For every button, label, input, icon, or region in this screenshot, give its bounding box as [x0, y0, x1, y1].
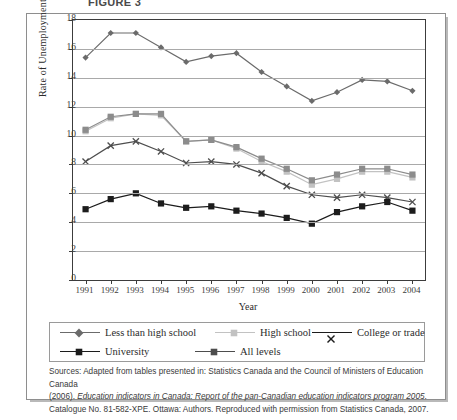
legend-marker-icon [60, 346, 100, 358]
legend-label: Less than high school [105, 327, 196, 338]
x-axis-title: Year [72, 301, 424, 312]
y-tick-label: 14 [52, 71, 76, 81]
series-marker [208, 53, 214, 59]
legend-label: High school [260, 327, 311, 338]
series-marker [384, 166, 390, 172]
series-marker [359, 203, 365, 209]
series-marker [183, 138, 189, 144]
series-marker [133, 111, 139, 117]
legend-label: University [105, 346, 149, 357]
series-marker [334, 209, 340, 215]
gridline [73, 251, 425, 252]
x-tick-mark [312, 280, 313, 284]
series-marker [258, 170, 264, 176]
series-marker [158, 200, 164, 206]
series-marker [108, 114, 114, 120]
series-marker [82, 127, 88, 133]
series-marker [158, 148, 164, 154]
legend-item[interactable]: College or trade [312, 323, 425, 342]
y-tick-label: 18 [52, 13, 76, 23]
x-tick-mark [86, 280, 87, 284]
series-layer [73, 20, 425, 280]
y-axis-title: Rate of Unemployment (%) [37, 0, 48, 97]
legend-label: All levels [240, 346, 281, 357]
x-tick-label: 2004 [394, 285, 428, 295]
series-marker [258, 210, 264, 216]
series-marker [384, 199, 390, 205]
series-marker [284, 183, 290, 189]
series-marker [409, 88, 415, 94]
series-marker [409, 208, 415, 214]
legend-item[interactable]: Less than high school [60, 323, 196, 342]
series-marker [158, 111, 164, 117]
legend-item[interactable]: University [60, 342, 149, 361]
legend-marker-icon [60, 327, 100, 339]
legend-marker-icon [215, 327, 255, 339]
legend-marker-icon [312, 327, 352, 339]
y-tick-label: 16 [52, 42, 76, 52]
x-tick-mark [262, 280, 263, 284]
sources-line-1: Sources: Adapted from tables presented i… [49, 366, 431, 391]
x-tick-mark [111, 280, 112, 284]
x-tick-mark [387, 280, 388, 284]
gridline [73, 193, 425, 194]
series-marker [183, 205, 189, 211]
x-tick-mark [136, 280, 137, 284]
series-marker [183, 59, 189, 65]
series-marker [284, 215, 290, 221]
plot-area [72, 19, 426, 281]
legend-row: UniversityAll levels [50, 342, 424, 361]
series-marker [309, 177, 315, 183]
y-tick-label: 4 [52, 215, 76, 225]
gridline [73, 107, 425, 108]
legend-marker-icon [195, 346, 235, 358]
y-tick-label: 0 [52, 273, 76, 283]
x-tick-mark [236, 280, 237, 284]
gridline [73, 222, 425, 223]
sources-line-2-suffix: . [425, 392, 427, 401]
gridline [73, 164, 425, 165]
series-marker [258, 156, 264, 162]
y-tick-label: 2 [52, 244, 76, 254]
legend-row: Less than high schoolHigh schoolCollege … [50, 323, 424, 342]
series-marker [233, 208, 239, 214]
series-marker [133, 30, 139, 36]
gridline [73, 78, 425, 79]
x-tick-mark [362, 280, 363, 284]
x-tick-mark [161, 280, 162, 284]
series-marker [284, 166, 290, 172]
x-tick-mark [412, 280, 413, 284]
y-tick-label: 12 [52, 100, 76, 110]
plot-wrapper: Rate of Unemployment (%) 024681012141618… [41, 19, 431, 315]
legend-label: College or trade [357, 327, 425, 338]
legend-item[interactable]: All levels [195, 342, 281, 361]
sources-line-2-italic: Education indicators in Canada: Report o… [77, 392, 424, 401]
series-marker [108, 196, 114, 202]
series-marker [359, 166, 365, 172]
document-title-fragment: FIGURE 3 [88, 0, 248, 10]
series-marker [284, 83, 290, 89]
x-tick-mark [337, 280, 338, 284]
figure-page: FIGURE 3 Rate of Unemployment (%) 024681… [0, 0, 457, 420]
x-tick-mark [186, 280, 187, 284]
sources-line-2: (2006). Education indicators in Canada: … [49, 391, 431, 404]
series-marker [208, 137, 214, 143]
y-tick-label: 10 [52, 129, 76, 139]
y-tick-label: 8 [52, 157, 76, 167]
sources-note: Sources: Adapted from tables presented i… [49, 366, 431, 416]
sources-line-3: Catalogue No. 81-582-XPE. Ottawa: Author… [49, 404, 431, 417]
series-marker [208, 203, 214, 209]
series-marker [233, 144, 239, 150]
x-tick-mark [211, 280, 212, 284]
series-marker [334, 89, 340, 95]
series-marker [384, 78, 390, 84]
legend-item[interactable]: High school [215, 323, 311, 342]
series-marker [82, 206, 88, 212]
x-tick-mark [287, 280, 288, 284]
series-marker [334, 171, 340, 177]
series-line [86, 33, 413, 101]
y-tick-label: 6 [52, 186, 76, 196]
gridline [73, 136, 425, 137]
gridline [73, 49, 425, 50]
legend: Less than high schoolHigh schoolCollege … [49, 322, 425, 362]
